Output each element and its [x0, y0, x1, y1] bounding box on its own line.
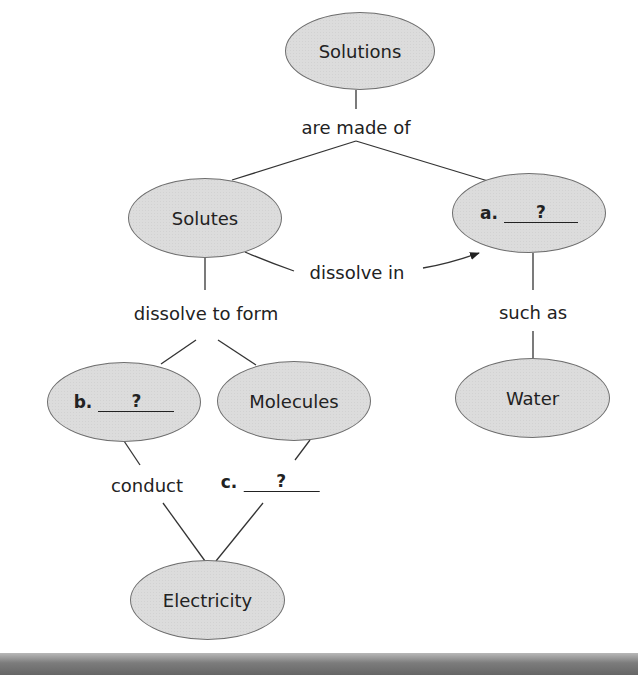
blank-c-letter: c. [221, 472, 238, 492]
node-solutions-label: Solutions [319, 41, 402, 62]
link-dissolve-in: dissolve in [309, 262, 404, 283]
node-solutions: Solutions [285, 12, 435, 90]
connector-b-conduct [124, 441, 140, 465]
connector-to-solutes [232, 141, 356, 180]
node-solutes: Solutes [128, 178, 282, 258]
link-c-blank: c. ? [221, 472, 320, 492]
node-molecules: Molecules [217, 361, 371, 441]
link-dissolve-to-form: dissolve to form [134, 303, 278, 324]
node-water: Water [455, 358, 610, 438]
connector-solutes-dissolve-in [245, 252, 294, 271]
node-water-label: Water [506, 388, 559, 409]
node-a-blank: a. ? [452, 173, 606, 253]
node-electricity: Electricity [130, 560, 285, 640]
blank-b-letter: b. [74, 392, 93, 412]
node-solutes-label: Solutes [172, 208, 238, 229]
connector-to-a [356, 141, 488, 181]
connector-conduct-electricity [163, 503, 205, 561]
node-b-blank: b. ? [47, 362, 201, 442]
link-are-made-of: are made of [302, 117, 411, 138]
link-conduct: conduct [111, 475, 183, 496]
connector-to-molecules [218, 340, 256, 365]
concept-map-connectors [0, 0, 638, 675]
connector-molecules-c [295, 440, 310, 460]
connector-c-electricity [216, 503, 263, 561]
node-molecules-label: Molecules [249, 391, 338, 412]
node-electricity-label: Electricity [163, 590, 252, 611]
blank-a-answer[interactable]: ? [504, 203, 578, 223]
link-such-as: such as [499, 302, 567, 323]
connector-to-b [161, 340, 196, 364]
page-bottom-bar [0, 653, 638, 675]
blank-c-answer[interactable]: ? [243, 472, 319, 492]
blank-a-letter: a. [480, 203, 498, 223]
arrow-dissolve-in-to-a [423, 253, 479, 268]
blank-b-answer[interactable]: ? [98, 392, 174, 412]
